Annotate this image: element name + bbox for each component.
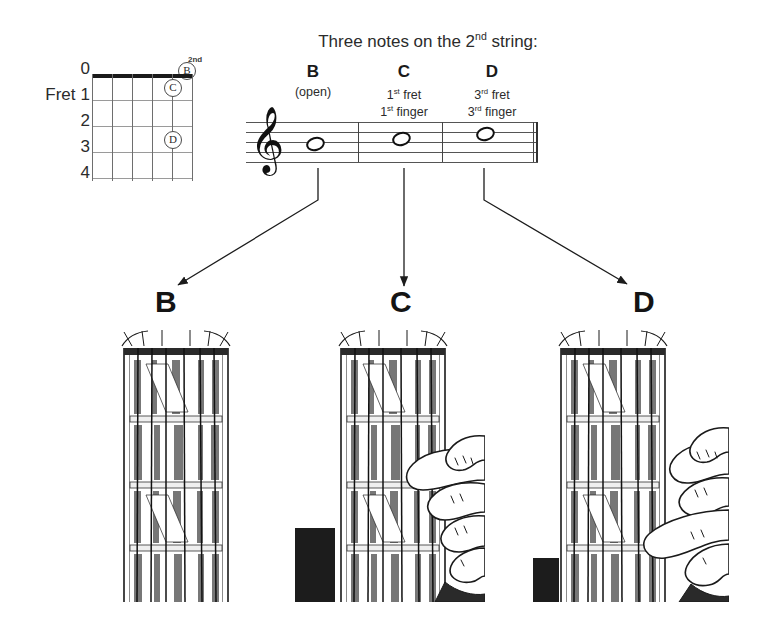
- heading-text-after: string:: [487, 32, 538, 51]
- heading-text-before: Three notes on the 2: [318, 32, 475, 51]
- nut-bar: [92, 74, 192, 78]
- fret-word-label: Fret: [45, 85, 75, 104]
- fret-label-1: 1: [81, 85, 90, 104]
- chord-marker-d: D: [164, 131, 182, 149]
- fret-label-2: 2: [81, 111, 90, 130]
- big-letter-c: C: [390, 285, 412, 319]
- chord-marker-c: C: [164, 79, 182, 97]
- fret-line-1: [92, 100, 192, 101]
- photo-d-third-fret: [533, 330, 729, 602]
- heading-superscript: nd: [475, 30, 487, 42]
- whole-note-d: [474, 125, 496, 144]
- note-detail-d-line1: 3rd fret: [437, 85, 547, 102]
- fret-label-0: 0: [81, 59, 90, 78]
- photo-b-open-string: [112, 330, 240, 602]
- page-title: Three notes on the 2nd string:: [288, 30, 568, 52]
- arrow-to-b: [178, 168, 318, 285]
- staff-line-5: [246, 122, 538, 123]
- big-letter-d: D: [633, 285, 655, 319]
- big-letter-b: B: [155, 285, 177, 319]
- arrow-to-d: [484, 168, 627, 284]
- note-detail-d-line2: 3rd finger: [437, 102, 547, 119]
- photo-c-first-fret: [295, 330, 485, 602]
- fret-line-2: [92, 126, 192, 127]
- note-column-d: D 3rd fret 3rd finger: [437, 62, 547, 119]
- note-letter-d: D: [437, 62, 547, 82]
